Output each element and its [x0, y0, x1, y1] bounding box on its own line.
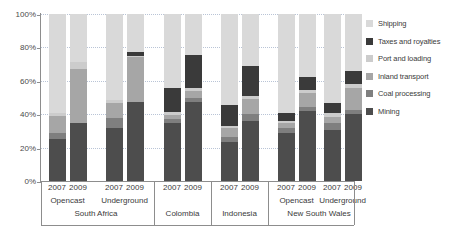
bar-11[interactable] — [345, 14, 362, 181]
legend-swatch-port-and-loading — [366, 55, 373, 62]
stacked-bar-chart: 100% 80% 60% 40% 20% 0% 2007200920072009… — [0, 0, 458, 241]
bar-segment-taxes-and-royalties — [185, 55, 202, 88]
bar-8[interactable] — [278, 14, 295, 181]
bar-segment-taxes-and-royalties — [299, 77, 316, 90]
bar-segment-shipping — [127, 14, 144, 52]
bar-segment-shipping — [278, 14, 295, 113]
bar-segment-inland-transport — [127, 57, 144, 101]
x-axis-country-label-2: Indonesia — [222, 209, 257, 218]
bar-segment-mining — [127, 102, 144, 181]
bar-segment-inland-transport — [324, 117, 341, 124]
legend-label-inland-transport: Inland transport — [378, 72, 429, 81]
x-axis-year-label-3: 2009 — [123, 183, 147, 192]
bar-segment-mining — [185, 102, 202, 181]
x-axis-minetype-label-3: Underground — [319, 196, 366, 205]
bar-segment-inland-transport — [106, 103, 123, 118]
legend-label-shipping: Shipping — [378, 19, 406, 28]
bar-segment-taxes-and-royalties — [221, 105, 238, 126]
x-axis-country-label-3: New South Wales — [287, 209, 350, 218]
bar-segment-shipping — [221, 14, 238, 105]
bar-segment-shipping — [106, 14, 123, 100]
x-axis-country-label-0: South Africa — [74, 209, 117, 218]
legend-swatch-shipping — [366, 20, 373, 27]
legend-swatch-taxes-and-royalties — [366, 38, 373, 45]
y-tick-label-40: 40% — [20, 110, 36, 119]
legend-swatch-inland-transport — [366, 73, 373, 80]
chart-legend: Shipping Taxes and royalties Port and lo… — [366, 15, 458, 120]
x-axis-minetype-label-1: Underground — [101, 196, 148, 205]
bar-segment-shipping — [70, 14, 87, 62]
legend-item-coal-processing[interactable]: Coal processing — [366, 85, 458, 103]
bar-segment-shipping — [299, 14, 316, 77]
legend-swatch-mining — [366, 108, 373, 115]
x-axis-band: 2007200920072009200720092007200920072009… — [41, 181, 354, 225]
bar-segment-shipping — [49, 14, 66, 113]
y-tick-label-20: 20% — [20, 143, 36, 152]
y-tick-label-100: 100% — [16, 10, 36, 19]
legend-label-mining: Mining — [378, 107, 400, 116]
bar-segment-mining — [242, 121, 259, 181]
bar-segment-taxes-and-royalties — [164, 88, 181, 111]
bar-segment-mining — [324, 130, 341, 181]
bar-9[interactable] — [299, 14, 316, 181]
x-axis-minetype-label-0: Opencast — [50, 196, 84, 205]
bar-segment-taxes-and-royalties — [324, 103, 341, 113]
legend-label-coal-processing: Coal processing — [378, 89, 430, 98]
legend-swatch-coal-processing — [366, 90, 373, 97]
y-tick-label-80: 80% — [20, 43, 36, 52]
x-axis-minetype-label-2: Opencast — [279, 196, 313, 205]
bar-segment-mining — [49, 139, 66, 181]
bar-segment-inland-transport — [345, 88, 362, 111]
legend-item-taxes-and-royalties[interactable]: Taxes and royalties — [366, 33, 458, 51]
x-axis-group-separator-1 — [154, 181, 155, 225]
bar-segment-mining — [70, 123, 87, 181]
legend-item-port-and-loading[interactable]: Port and loading — [366, 50, 458, 68]
bar-segment-mining — [345, 114, 362, 181]
bar-segment-taxes-and-royalties — [242, 66, 259, 96]
x-axis-group-separator-2 — [211, 181, 212, 225]
x-axis-group-separator-4 — [354, 181, 355, 225]
legend-label-taxes-and-royalties: Taxes and royalties — [378, 37, 440, 46]
bar-4[interactable] — [164, 14, 181, 181]
bar-5[interactable] — [185, 14, 202, 181]
bar-segment-mining — [299, 111, 316, 181]
x-axis-year-label-7: 2009 — [238, 183, 262, 192]
bar-7[interactable] — [242, 14, 259, 181]
legend-item-mining[interactable]: Mining — [366, 103, 458, 121]
bar-0[interactable] — [49, 14, 66, 181]
bar-segment-inland-transport — [185, 91, 202, 98]
bar-segment-inland-transport — [49, 116, 66, 133]
bar-segment-shipping — [345, 14, 362, 71]
plot-area — [41, 14, 354, 181]
bar-segment-inland-transport — [70, 69, 87, 123]
bar-3[interactable] — [127, 14, 144, 181]
bar-segment-mining — [221, 142, 238, 181]
bar-segment-coal-processing — [106, 118, 123, 128]
bar-10[interactable] — [324, 14, 341, 181]
bar-segment-coal-processing — [324, 123, 341, 130]
legend-item-inland-transport[interactable]: Inland transport — [366, 68, 458, 86]
bar-segment-taxes-and-royalties — [345, 71, 362, 84]
y-tick-label-0: 0% — [24, 177, 36, 186]
y-tick-label-60: 60% — [20, 76, 36, 85]
bar-segment-mining — [278, 133, 295, 181]
bar-segment-port-and-loading — [70, 62, 87, 69]
bar-segment-mining — [164, 123, 181, 181]
bar-1[interactable] — [70, 14, 87, 181]
bar-segment-shipping — [324, 14, 341, 103]
x-axis-year-label-9: 2009 — [295, 183, 319, 192]
x-axis-group-separator-3 — [268, 181, 269, 225]
bar-6[interactable] — [221, 14, 238, 181]
bar-segment-shipping — [164, 14, 181, 88]
x-axis-year-label-11: 2009 — [341, 183, 365, 192]
bar-segment-coal-processing — [49, 133, 66, 140]
bar-2[interactable] — [106, 14, 123, 181]
legend-item-shipping[interactable]: Shipping — [366, 15, 458, 33]
x-axis-country-label-1: Colombia — [166, 209, 200, 218]
legend-label-port-and-loading: Port and loading — [378, 54, 431, 63]
bar-segment-shipping — [185, 14, 202, 55]
bar-segment-inland-transport — [299, 93, 316, 106]
y-axis-labels: 100% 80% 60% 40% 20% 0% — [0, 14, 36, 181]
bar-segment-mining — [106, 128, 123, 181]
bar-segment-inland-transport — [242, 99, 259, 114]
